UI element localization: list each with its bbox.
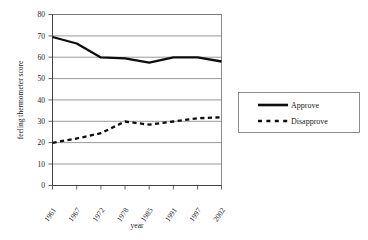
y-tick-label: 50 [38, 74, 46, 83]
y-tick-label: 30 [38, 117, 46, 126]
line-chart: 80 70 60 50 40 30 20 10 0 1961 1967 1972 [0, 0, 368, 240]
x-axis-title: year [131, 221, 144, 230]
y-tick-label: 20 [38, 138, 46, 147]
chart-legend: Approve Disapprove [239, 93, 360, 133]
y-tick-labels: 80 70 60 50 40 30 20 10 0 [38, 10, 46, 190]
y-tick-label: 70 [38, 32, 46, 41]
y-tick-label: 60 [38, 53, 46, 62]
chart-figure: 80 70 60 50 40 30 20 10 0 1961 1967 1972 [0, 0, 368, 240]
y-tick-label: 10 [38, 160, 46, 169]
legend-label-disapprove: Disapprove [291, 117, 328, 126]
y-tick-label: 0 [41, 181, 45, 190]
y-axis-title: feeling thermometer score [16, 60, 25, 139]
legend-label-approve: Approve [291, 101, 319, 110]
legend-border [239, 93, 360, 133]
y-tick-label: 40 [38, 96, 46, 105]
y-tick-label: 80 [38, 10, 46, 19]
